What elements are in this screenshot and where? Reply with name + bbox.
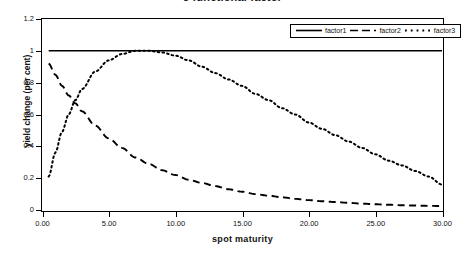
legend-item-factor3: factor3: [405, 27, 455, 34]
x-tick-mark: [43, 212, 44, 217]
x-tick-mark: [376, 212, 377, 217]
y-tick-label: 0: [0, 206, 34, 214]
series-line-factor3: [49, 51, 442, 185]
legend-item-factor1: factor1: [296, 27, 346, 34]
x-tick-label: 25.00: [356, 220, 396, 228]
legend-swatch-dotted-icon: [405, 27, 431, 34]
legend-swatch-dashed-icon: [350, 27, 376, 34]
x-tick-mark: [109, 212, 110, 217]
series-line-factor2: [49, 64, 442, 206]
legend-label-factor2: factor2: [379, 27, 400, 34]
legend-swatch-solid-icon: [296, 27, 322, 34]
plot-area: [41, 18, 444, 212]
y-tick-label: 0.8: [0, 79, 34, 87]
x-tick-label: 30.00: [423, 220, 463, 228]
x-tick-label: 5.00: [89, 220, 129, 228]
y-tick-label: 0.4: [0, 142, 34, 150]
chart-figure: 3 functional factor yield change (per ce…: [0, 0, 465, 257]
y-tick-label: 0.2: [0, 174, 34, 182]
x-tick-mark: [309, 212, 310, 217]
chart-legend: factor1 factor2 factor3: [290, 24, 461, 38]
x-tick-label: 10.00: [156, 220, 196, 228]
legend-label-factor1: factor1: [325, 27, 346, 34]
x-tick-mark: [243, 212, 244, 217]
legend-item-factor2: factor2: [350, 27, 400, 34]
x-tick-label: 20.00: [289, 220, 329, 228]
y-tick-label: 1.2: [0, 15, 34, 23]
x-tick-label: 15.00: [223, 220, 263, 228]
y-tick-label: 1: [0, 47, 34, 55]
chart-title: 3 functional factor: [0, 0, 465, 3]
x-tick-label: 0.00: [23, 220, 63, 228]
x-tick-mark: [176, 212, 177, 217]
x-tick-mark: [443, 212, 444, 217]
legend-label-factor3: factor3: [434, 27, 455, 34]
y-tick-label: 0.6: [0, 111, 34, 119]
series-canvas: [42, 19, 442, 210]
x-axis-label: spot maturity: [41, 234, 444, 244]
